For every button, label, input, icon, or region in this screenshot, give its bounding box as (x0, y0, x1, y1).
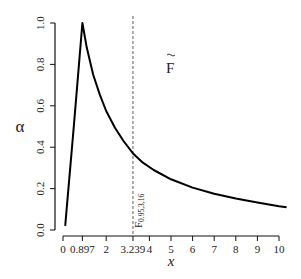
x-tick-label: 4 (147, 243, 153, 255)
axes: 0.00.20.40.60.81.0 00.89723.23945678910 (34, 16, 285, 255)
x-tick-label: 6 (190, 243, 196, 255)
x-tick-label: 2 (103, 243, 109, 255)
y-tick-label: 0.6 (34, 98, 46, 112)
x-tick-label: 3.239 (121, 243, 146, 255)
f-tilde-letter: F (166, 60, 174, 76)
x-tick-label: 10 (274, 243, 286, 255)
x-axis-title: x (167, 253, 175, 269)
y-tick-label: 0.0 (34, 223, 46, 237)
chart: 0.00.20.40.60.81.0 00.89723.23945678910 … (0, 0, 301, 279)
critical-value-label: F0.95,3,16 (132, 194, 146, 229)
critical-value-label-sub: 0.95,3,16 (137, 194, 146, 222)
x-tick-label: 0.897 (70, 243, 95, 255)
y-tick-label: 1.0 (34, 16, 46, 30)
y-tick-label: 0.8 (34, 57, 46, 71)
y-axis-title: α (16, 117, 25, 136)
tilde-mark (167, 54, 175, 56)
y-tick-label: 0.2 (34, 182, 46, 196)
alpha-curve (65, 23, 286, 226)
y-tick-label: 0.4 (34, 140, 46, 154)
f-tilde-annotation: F (166, 54, 175, 76)
x-tick-label: 0 (60, 243, 66, 255)
x-tick-label: 8 (233, 243, 239, 255)
y-axis-ticks: 0.00.20.40.60.81.0 (34, 16, 55, 237)
x-tick-label: 9 (255, 243, 261, 255)
x-tick-label: 7 (211, 243, 217, 255)
